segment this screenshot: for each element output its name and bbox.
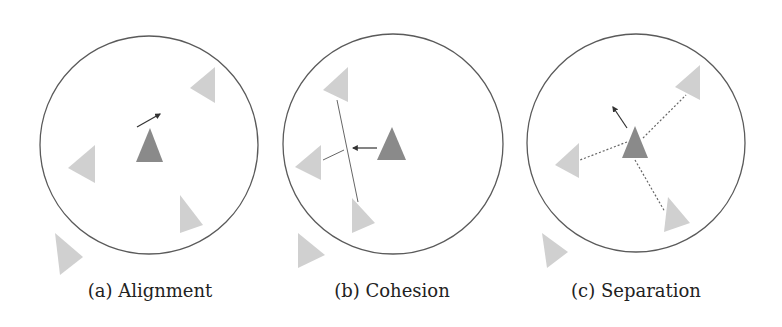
- panel-alignment: [40, 36, 258, 275]
- neighbor-boid-icon: [542, 233, 568, 268]
- neighbor-boid-icon: [675, 65, 700, 100]
- focal-boid-icon: [136, 128, 163, 162]
- neighbor-boid-icon: [295, 145, 321, 180]
- neighbor-boid-icon: [55, 233, 83, 275]
- steering-arrow-icon: [137, 114, 160, 127]
- caption-alignment: (a) Alignment: [88, 280, 213, 301]
- neighbor-boid-icon: [298, 233, 325, 268]
- neighbor-boid-icon: [323, 67, 348, 102]
- focal-boid-icon: [377, 127, 406, 160]
- neighbor-boid-icon: [68, 145, 95, 183]
- neighbor-boid-icon: [664, 197, 690, 232]
- panel-separation: [527, 34, 745, 268]
- caption-separation: (c) Separation: [571, 280, 701, 301]
- center-of-mass-line: [323, 150, 344, 160]
- distance-line: [643, 95, 686, 138]
- neighbor-boid-icon: [190, 67, 215, 103]
- center-of-mass-line: [337, 100, 358, 202]
- steering-arrow-icon: [613, 107, 627, 128]
- panel-cohesion: [283, 34, 503, 268]
- neighbor-boid-icon: [180, 195, 203, 233]
- distance-line: [635, 160, 665, 212]
- neighbor-boid-icon: [555, 143, 579, 178]
- distance-line: [580, 142, 627, 160]
- neighbor-boid-icon: [352, 198, 375, 233]
- caption-cohesion: (b) Cohesion: [334, 280, 450, 301]
- boids-rules-figure: [0, 0, 782, 327]
